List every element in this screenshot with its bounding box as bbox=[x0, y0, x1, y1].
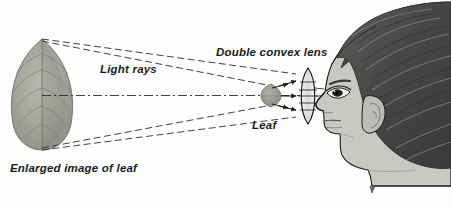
label-light-rays: Light rays bbox=[100, 63, 157, 75]
diagram-canvas: Light rays Double convex lens Leaf Enlar… bbox=[0, 0, 451, 207]
leaf-object bbox=[261, 84, 281, 107]
label-double-convex-lens: Double convex lens bbox=[216, 46, 328, 58]
human-head-profile bbox=[316, 2, 451, 193]
enlarged-leaf-image bbox=[11, 39, 72, 150]
label-leaf: Leaf bbox=[252, 119, 276, 131]
optics-diagram-illustration bbox=[0, 0, 451, 207]
label-enlarged-image-of-leaf: Enlarged image of leaf bbox=[10, 162, 137, 174]
